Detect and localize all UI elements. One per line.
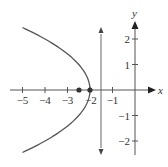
parabola-diagram: x y −5−4−3−2−1 21−1−2 — [0, 0, 168, 167]
x-tick-label: −5 — [17, 94, 29, 106]
y-tick-label: −1 — [118, 110, 130, 122]
x-axis-label: x — [157, 84, 163, 96]
axes: x y — [10, 7, 163, 155]
y-tick-label: 2 — [125, 33, 131, 45]
y-tick-label: 1 — [125, 59, 131, 71]
y-axis-arrow-icon — [132, 21, 139, 29]
directrix-arrow-down-icon — [99, 149, 104, 155]
x-tick-label: −3 — [62, 94, 74, 106]
vertex-point — [87, 87, 92, 92]
x-tick-label: −1 — [107, 94, 119, 106]
diagram-canvas: x y −5−4−3−2−1 21−1−2 — [0, 0, 168, 167]
directrix — [99, 27, 104, 155]
focus-point — [76, 87, 81, 92]
y-tick-label: −2 — [118, 135, 130, 147]
directrix-arrow-up-icon — [99, 27, 104, 33]
x-axis-arrow-icon — [148, 87, 156, 94]
y-axis-label: y — [131, 7, 137, 19]
x-tick-label: −4 — [39, 94, 51, 106]
